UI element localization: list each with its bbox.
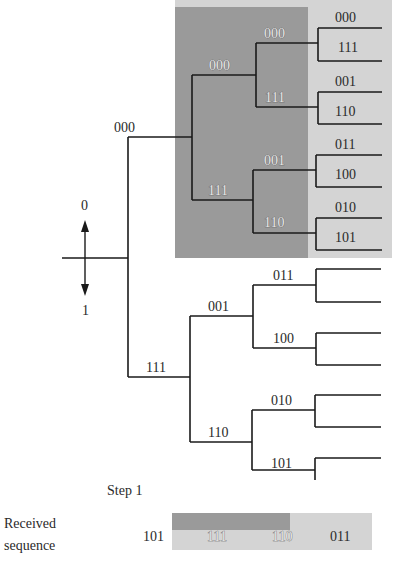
sequence-symbol: 111 xyxy=(207,529,227,544)
branch-label: 111 xyxy=(146,360,166,375)
step-label: Step 1 xyxy=(107,482,142,500)
sequence-symbol: 110 xyxy=(272,529,292,544)
branch-label: 010 xyxy=(271,393,292,408)
leaf-label: 100 xyxy=(335,167,356,182)
branch-label: 011 xyxy=(273,268,293,283)
up-direction-label: 0 xyxy=(81,198,88,213)
branch-label: 110 xyxy=(264,215,284,230)
leaf-label: 001 xyxy=(335,74,356,89)
leaf-label: 010 xyxy=(335,200,356,215)
leaf-label: 111 xyxy=(338,40,358,55)
dark-region xyxy=(175,7,308,258)
branch-label: 110 xyxy=(208,425,228,440)
sequence-symbol: 011 xyxy=(330,529,350,544)
leaf-label: 000 xyxy=(335,10,356,25)
branch-label: 101 xyxy=(271,456,292,471)
branch-label: 100 xyxy=(273,331,294,346)
leaf-label: 101 xyxy=(335,230,356,245)
leaf-label: 011 xyxy=(335,137,355,152)
sequence-symbol: 101 xyxy=(143,529,164,544)
branch-label: 001 xyxy=(264,153,285,168)
received-label-line2: sequence xyxy=(4,537,55,555)
down-direction-label: 1 xyxy=(82,303,89,318)
leaf-label: 110 xyxy=(335,104,355,119)
branch-label: 000 xyxy=(264,26,285,41)
branch-label: 111 xyxy=(208,183,228,198)
branch-label: 111 xyxy=(265,90,285,105)
branch-label: 000 xyxy=(114,120,135,135)
branch-label: 000 xyxy=(209,58,230,73)
trellis-tree-diagram: 000 111 000 111 000 111 001 110 000 111 … xyxy=(0,0,394,567)
received-label-line1: Received xyxy=(4,515,56,533)
branch-label: 001 xyxy=(208,299,229,314)
sequence-dark-bar xyxy=(172,513,290,530)
